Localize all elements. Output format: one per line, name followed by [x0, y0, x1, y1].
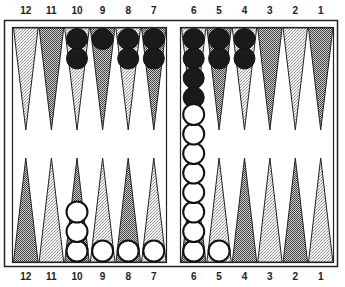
white-checker[interactable] — [183, 221, 204, 242]
white-checker[interactable] — [118, 241, 139, 262]
black-checker[interactable] — [118, 48, 139, 69]
black-checker[interactable] — [209, 48, 230, 69]
black-checker[interactable] — [92, 29, 113, 50]
black-checker[interactable] — [209, 29, 230, 50]
white-checker[interactable] — [183, 241, 204, 262]
left-half-board — [13, 28, 167, 263]
black-checker[interactable] — [183, 48, 204, 69]
black-checker[interactable] — [234, 29, 255, 50]
white-checker[interactable] — [92, 241, 113, 262]
white-checker[interactable] — [67, 221, 88, 242]
black-checker[interactable] — [143, 29, 164, 50]
black-checker[interactable] — [183, 29, 204, 50]
white-checker[interactable] — [183, 163, 204, 184]
white-checker[interactable] — [67, 241, 88, 262]
white-checker[interactable] — [183, 182, 204, 203]
black-checker[interactable] — [118, 29, 139, 50]
white-checker[interactable] — [209, 241, 230, 262]
white-checker[interactable] — [183, 104, 204, 125]
black-checker[interactable] — [183, 68, 204, 89]
white-checker[interactable] — [143, 241, 164, 262]
black-checker[interactable] — [67, 29, 88, 50]
backgammon-board — [0, 0, 345, 287]
white-checker[interactable] — [183, 202, 204, 223]
white-checker[interactable] — [183, 124, 204, 145]
black-checker[interactable] — [143, 48, 164, 69]
black-checker[interactable] — [67, 48, 88, 69]
black-checker[interactable] — [234, 48, 255, 69]
white-checker[interactable] — [67, 202, 88, 223]
white-checker[interactable] — [183, 143, 204, 164]
